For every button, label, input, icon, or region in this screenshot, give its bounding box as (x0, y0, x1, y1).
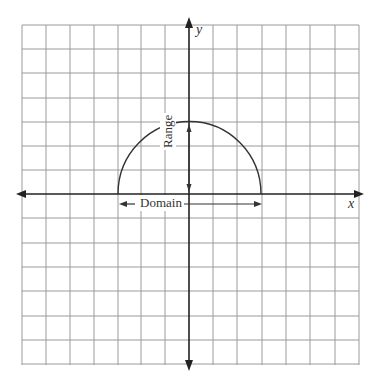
domain-left-arrow-icon (119, 201, 127, 207)
grid (22, 25, 359, 365)
range-up-arrow-icon (187, 124, 192, 132)
graph (0, 0, 377, 387)
domain-right-arrow-icon (254, 201, 262, 207)
domain-label: Domain (138, 195, 184, 211)
y-axis-up-arrow-icon (185, 17, 193, 28)
x-axis (16, 190, 364, 198)
range-down-arrow-icon (187, 184, 192, 192)
x-axis-left-arrow-icon (16, 190, 26, 198)
range-label: Range (160, 113, 176, 150)
range-arrow (187, 124, 192, 192)
y-axis-label: y (196, 22, 202, 38)
x-axis-label: x (348, 196, 354, 212)
y-axis-down-arrow-icon (185, 360, 193, 371)
